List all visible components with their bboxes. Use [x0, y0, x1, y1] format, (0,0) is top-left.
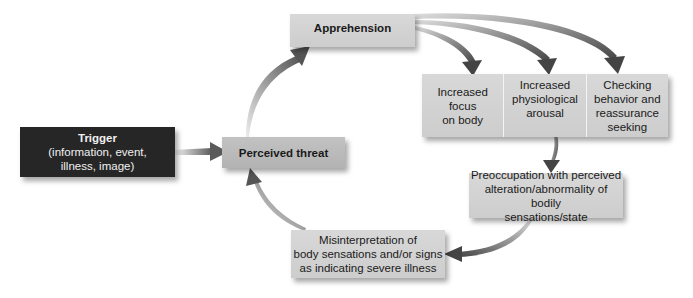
perceived-threat-label: Perceived threat — [239, 146, 329, 160]
misinterpretation-label: Misinterpretation of body sensations and… — [294, 233, 443, 275]
physiological-arousal-node: Increased physiological arousal — [503, 74, 585, 137]
trigger-node: Trigger (information, event, illness, im… — [20, 127, 175, 177]
arrow-preoccupation-to-misinterpretation — [444, 218, 533, 262]
physiological-arousal-label: Increased physiological arousal — [512, 78, 578, 120]
arrow-apprehension-to-focus — [415, 26, 482, 76]
misinterpretation-node: Misinterpretation of body sensations and… — [291, 230, 445, 278]
apprehension-node: Apprehension — [290, 14, 415, 47]
arrow-misinterpretation-to-threat — [246, 168, 306, 231]
trigger-subtitle: (information, event, illness, image) — [48, 145, 146, 173]
arrow-threat-to-apprehension — [246, 46, 310, 137]
perceived-threat-node: Perceived threat — [222, 137, 345, 168]
preoccupation-node: Preoccupation with perceived alteration/… — [469, 173, 623, 218]
apprehension-label: Apprehension — [314, 21, 391, 35]
trigger-title: Trigger — [78, 131, 117, 145]
response-row: Increased focus on body Increased physio… — [422, 74, 668, 137]
increased-focus-label: Increased focus on body — [425, 85, 500, 127]
checking-behavior-node: Checking behavior and reassurance seekin… — [586, 74, 668, 137]
arrow-trigger-to-threat — [172, 142, 228, 161]
arrow-apprehension-to-arousal — [415, 20, 557, 75]
preoccupation-label: Preoccupation with perceived alteration/… — [469, 168, 623, 224]
checking-behavior-label: Checking behavior and reassurance seekin… — [594, 78, 661, 134]
increased-focus-node: Increased focus on body — [422, 74, 503, 137]
